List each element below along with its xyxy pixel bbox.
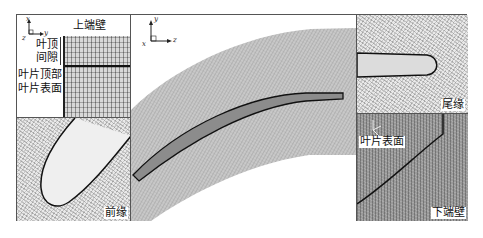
axis-label-y: y (154, 15, 158, 23)
blade-surface-line (63, 36, 65, 118)
axis-label-z: z (22, 34, 26, 42)
trailing-edge-panel: 尾缘 (356, 15, 468, 114)
axis-label-z: z (173, 36, 177, 44)
figure-frame: x y z 上端壁 叶顶 间隙 叶片顶部 叶片表面 前缘 (16, 14, 467, 221)
axis-label-x: x (26, 15, 30, 23)
axis-label-x: x (142, 40, 146, 48)
leading-edge-panel: 前缘 (17, 118, 131, 221)
trailing-edge-label: 尾缘 (441, 99, 465, 111)
blade-tip-label: 叶片顶部 (17, 69, 63, 81)
tip-gap-panel: x y z 上端壁 叶顶 间隙 叶片顶部 叶片表面 (17, 15, 131, 118)
upper-endwall-label: 上端壁 (72, 20, 107, 32)
axis-label-y: y (44, 29, 48, 37)
tip-gap-mesh (63, 36, 131, 118)
blade-tip-line (63, 65, 131, 67)
tip-gap-bracket (60, 37, 63, 65)
blade-surface-label: 叶片表面 (17, 83, 63, 95)
leading-edge-label: 前缘 (104, 207, 128, 219)
lower-endwall-panel: 叶片表面 下端壁 (356, 114, 468, 221)
blade-surface-label: 叶片表面 (359, 136, 405, 148)
lower-endwall-label: 下端壁 (431, 207, 466, 219)
tip-clearance-label-1: 叶顶 (35, 39, 59, 51)
tip-clearance-label-2: 间隙 (35, 52, 59, 64)
coordinate-axes-icon (141, 17, 175, 49)
passage-panel: y z x (131, 15, 356, 221)
